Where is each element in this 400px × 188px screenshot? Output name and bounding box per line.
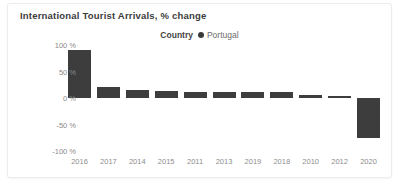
- bar-column[interactable]: [241, 45, 264, 151]
- bar[interactable]: [97, 87, 120, 98]
- bar-column[interactable]: [270, 45, 293, 151]
- y-axis-tick-label: -100 %: [16, 147, 76, 156]
- bar-column[interactable]: [357, 45, 380, 151]
- bar-column[interactable]: [97, 45, 120, 151]
- bar[interactable]: [299, 95, 322, 98]
- bar[interactable]: [357, 98, 380, 138]
- y-axis-tick-label: 100 %: [16, 41, 76, 50]
- bar-column[interactable]: [299, 45, 322, 151]
- bar-column[interactable]: [155, 45, 178, 151]
- bar[interactable]: [126, 90, 149, 98]
- bar[interactable]: [184, 92, 207, 98]
- chart-card: International Tourist Arrivals, % change…: [7, 3, 392, 178]
- bar-column[interactable]: [328, 45, 351, 151]
- bar-column[interactable]: [126, 45, 149, 151]
- x-axis-tick-label: 2020: [352, 157, 386, 166]
- bar[interactable]: [241, 92, 264, 98]
- bar[interactable]: [155, 91, 178, 98]
- bar-series: 2016201720142015201120132019201820102012…: [68, 45, 386, 151]
- y-axis-tick-label: 0 %: [16, 94, 76, 103]
- y-axis-tick-label: -50 %: [16, 120, 76, 129]
- bar-column[interactable]: [213, 45, 236, 151]
- y-axis-tick-label: 50 %: [16, 67, 76, 76]
- bar[interactable]: [213, 92, 236, 98]
- bar[interactable]: [328, 96, 351, 98]
- plot-area: 2016201720142015201120132019201820102012…: [8, 4, 393, 179]
- bar[interactable]: [270, 92, 293, 98]
- bar-column[interactable]: [184, 45, 207, 151]
